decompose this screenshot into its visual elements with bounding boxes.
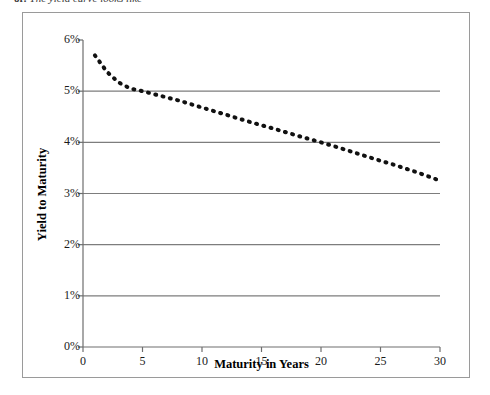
x-axis-tick-labels: 051015202530 bbox=[0, 0, 490, 395]
x-axis-title: Maturity in Years bbox=[83, 357, 440, 372]
y-axis-title: Yield to Maturity bbox=[35, 115, 50, 275]
